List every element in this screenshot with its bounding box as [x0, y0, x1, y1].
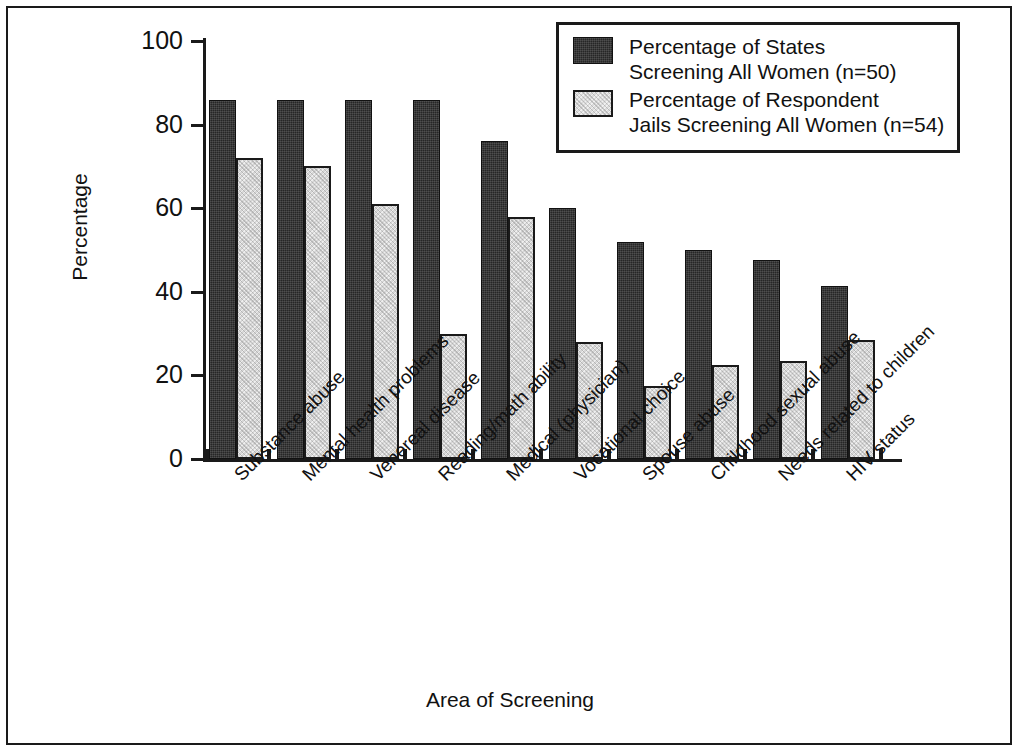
y-axis-tick — [191, 207, 205, 210]
legend-entry-states: Percentage of States Screening All Women… — [573, 34, 897, 84]
legend-label-states-line2: Screening All Women (n=50) — [629, 59, 897, 84]
legend-swatch-states — [573, 37, 613, 64]
chart-figure: 020406080100 Percentage Substance abuseM… — [0, 0, 1020, 753]
y-axis-tick-label: 0 — [55, 446, 183, 471]
legend-entry-jails: Percentage of Respondent Jails Screening… — [573, 87, 944, 137]
y-axis-tick — [191, 458, 205, 461]
x-axis-title: Area of Screening — [0, 688, 1020, 712]
y-axis-tick — [191, 374, 205, 377]
bar-states — [209, 100, 236, 459]
y-axis-title: Percentage — [68, 117, 92, 337]
y-axis-tick — [191, 40, 205, 43]
y-axis-tick — [191, 291, 205, 294]
legend-label-jails-line2: Jails Screening All Women (n=54) — [629, 112, 944, 137]
legend-swatch-jails — [573, 90, 613, 117]
legend-label-jails-line1: Percentage of Respondent — [629, 87, 944, 112]
y-axis-tick-label: 100 — [55, 28, 183, 53]
chart-legend: Percentage of States Screening All Women… — [556, 22, 960, 153]
y-axis-tick-label: 20 — [55, 362, 183, 387]
x-axis-group-tick — [205, 449, 209, 460]
y-axis-tick — [191, 124, 205, 127]
legend-label-states-line1: Percentage of States — [629, 34, 897, 59]
bar-jails — [236, 158, 263, 459]
